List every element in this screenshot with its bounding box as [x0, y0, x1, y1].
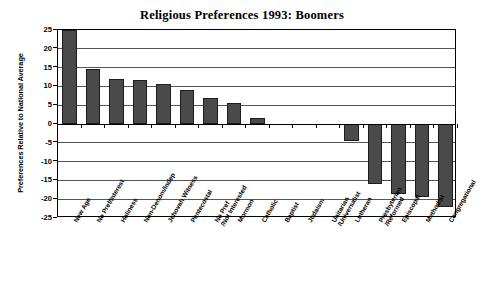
y-axis-tick-mark	[53, 29, 57, 30]
y-axis-tick-mark	[53, 141, 57, 142]
y-axis-tick-label: -25	[18, 213, 52, 222]
bar	[227, 103, 242, 124]
x-axis-tick-mark	[339, 124, 340, 128]
x-axis-tick-mark	[81, 124, 82, 128]
x-axis-tick-mark	[269, 124, 270, 128]
x-axis-tick-mark	[386, 124, 387, 128]
zero-axis-line	[58, 124, 455, 125]
y-axis-tick-mark	[53, 198, 57, 199]
x-axis-category-labels: New AgeNo Pref/InterestHolinessNon-Denom…	[57, 218, 456, 293]
bar	[203, 98, 218, 124]
x-axis-tick-mark	[316, 124, 317, 128]
bar	[109, 79, 124, 124]
x-axis-tick-mark	[457, 124, 458, 128]
y-axis-tick-mark	[53, 66, 57, 67]
bar	[344, 124, 359, 141]
y-axis-tick-mark	[53, 123, 57, 124]
bar	[62, 30, 77, 124]
y-axis-tick-mark	[53, 217, 57, 218]
y-axis-tick-mark	[53, 104, 57, 105]
y-axis-tick-label: 10	[18, 81, 52, 90]
x-axis-tick-mark	[104, 124, 105, 128]
x-axis-tick-mark	[198, 124, 199, 128]
bar	[180, 90, 195, 124]
y-axis-tick-label: -10	[18, 156, 52, 165]
gridline	[58, 67, 455, 68]
gridline	[58, 48, 455, 49]
x-axis-tick-mark	[433, 124, 434, 128]
x-axis-tick-mark	[175, 124, 176, 128]
y-axis-tick-mark	[53, 179, 57, 180]
x-axis-tick-mark	[410, 124, 411, 128]
x-axis-tick-mark	[151, 124, 152, 128]
y-axis-tick-label: 5	[18, 100, 52, 109]
y-axis-tick-mark	[53, 47, 57, 48]
bar	[156, 84, 171, 124]
chart-title: Religious Preferences 1993: Boomers	[0, 8, 484, 23]
x-axis-tick-mark	[222, 124, 223, 128]
y-axis-tick-label: 0	[18, 119, 52, 128]
x-axis-tick-mark	[292, 124, 293, 128]
y-axis-tick-label: -5	[18, 137, 52, 146]
bar	[86, 69, 101, 124]
y-axis-tick-label: 20	[18, 43, 52, 52]
x-axis-tick-mark	[363, 124, 364, 128]
y-axis-tick-mark	[53, 85, 57, 86]
x-axis-tick-mark	[128, 124, 129, 128]
y-axis-tick-label: -15	[18, 175, 52, 184]
chart-container: Religious Preferences 1993: Boomers Pref…	[0, 0, 484, 293]
bar	[133, 80, 148, 124]
y-axis-tick-mark	[53, 160, 57, 161]
x-axis-tick-mark	[245, 124, 246, 128]
y-axis-tick-label: 25	[18, 25, 52, 34]
y-axis-tick-label: 15	[18, 62, 52, 71]
y-axis-tick-label: -20	[18, 194, 52, 203]
